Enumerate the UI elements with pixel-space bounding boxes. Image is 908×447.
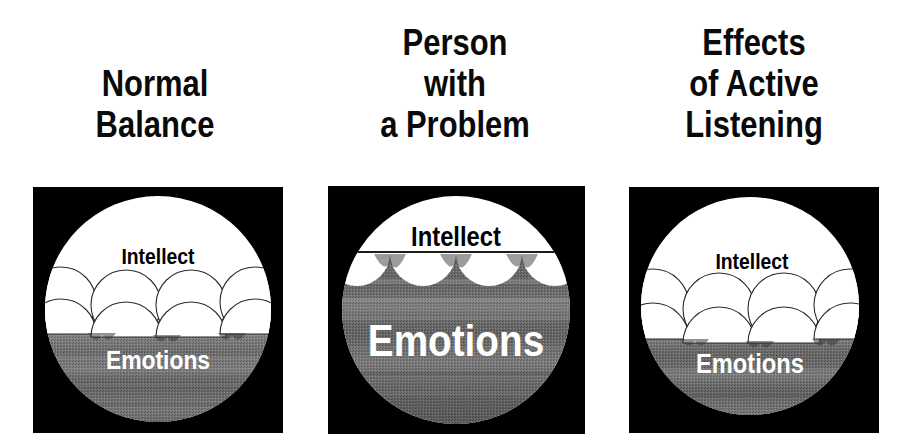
label-intellect: Intellect — [411, 222, 501, 252]
panel-title-effects-of-active-listening: Effects of Active Listening — [600, 22, 908, 145]
panel-title-normal-balance: Normal Balance — [0, 63, 310, 145]
panel-title-person-with-a-problem: Person with a Problem — [305, 22, 605, 145]
panel-title-line: Listening — [622, 104, 887, 145]
diagram-effects-of-active-listening: Intellect Emotions — [629, 187, 879, 433]
label-emotions: Emotions — [696, 349, 804, 379]
panel-title-line: Normal — [22, 63, 289, 104]
figure-canvas: Normal Balance — [0, 0, 908, 447]
label-intellect: Intellect — [121, 244, 194, 268]
panel-title-line: Effects — [622, 22, 887, 63]
panel-title-line: of Active — [622, 63, 887, 104]
diagram-person-with-a-problem: Intellect Emotions — [328, 186, 585, 434]
panel-title-line: a Problem — [326, 104, 584, 145]
panel-title-line: Person — [326, 22, 584, 63]
panel-title-line: with — [326, 63, 584, 104]
label-emotions: Emotions — [106, 346, 210, 375]
label-intellect: Intellect — [715, 249, 788, 273]
diagram-normal-balance: Intellect Emotions — [33, 187, 283, 433]
label-emotions: Emotions — [368, 316, 544, 366]
panel-title-line: Balance — [22, 104, 289, 145]
